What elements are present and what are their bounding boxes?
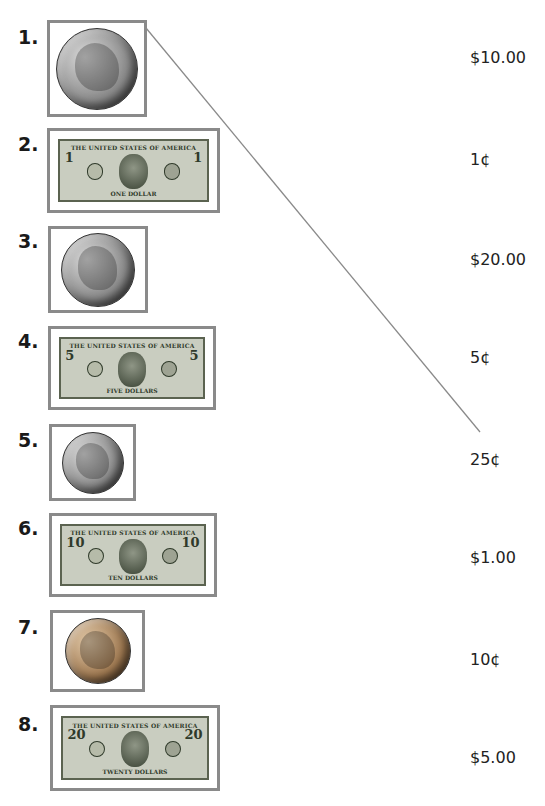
bill-corner-right: 10 (182, 535, 200, 550)
value-option[interactable]: 25¢ (470, 450, 501, 469)
item-7-penny[interactable] (50, 610, 145, 692)
ten-dollar-bill-icon: THE UNITED STATES OF AMERICA 10 10 TEN D… (60, 524, 206, 586)
item-4-five-dollar[interactable]: THE UNITED STATES OF AMERICA 5 5 FIVE DO… (48, 326, 216, 410)
bill-bottom-text: TWENTY DOLLARS (63, 768, 207, 775)
bill-bottom-text: ONE DOLLAR (60, 190, 206, 197)
item-number: 6. (18, 517, 38, 539)
item-number: 2. (18, 133, 38, 155)
item-2-one-dollar[interactable]: THE UNITED STATES OF AMERICA 1 1 ONE DOL… (47, 128, 220, 213)
bill-corner-right: 1 (193, 150, 202, 165)
item-6-ten-dollar[interactable]: THE UNITED STATES OF AMERICA 10 10 TEN D… (49, 513, 217, 597)
value-option[interactable]: 10¢ (470, 650, 501, 669)
value-option[interactable]: 5¢ (470, 348, 490, 367)
dime-coin-icon (62, 432, 124, 494)
item-number: 7. (18, 616, 38, 638)
item-number: 8. (18, 713, 38, 735)
bill-top-text: THE UNITED STATES OF AMERICA (60, 144, 206, 151)
value-option[interactable]: $1.00 (470, 548, 516, 567)
bill-corner-right: 5 (190, 348, 199, 363)
item-number: 5. (18, 429, 38, 451)
bill-bottom-text: TEN DOLLARS (62, 574, 204, 581)
item-8-twenty-dollar[interactable]: THE UNITED STATES OF AMERICA 20 20 TWENT… (50, 705, 220, 791)
value-option[interactable]: $10.00 (470, 48, 526, 67)
nickel-coin-icon (61, 233, 135, 307)
item-number: 3. (18, 230, 38, 252)
five-dollar-bill-icon: THE UNITED STATES OF AMERICA 5 5 FIVE DO… (59, 337, 205, 399)
penny-coin-icon (65, 618, 131, 684)
bill-corner-left: 20 (68, 727, 86, 742)
item-5-dime[interactable] (49, 424, 136, 501)
item-number: 4. (18, 330, 38, 352)
bill-corner-left: 10 (66, 535, 84, 550)
value-option[interactable]: 1¢ (470, 150, 490, 169)
twenty-dollar-bill-icon: THE UNITED STATES OF AMERICA 20 20 TWENT… (61, 716, 209, 780)
value-option[interactable]: $20.00 (470, 250, 526, 269)
item-3-nickel[interactable] (48, 226, 148, 313)
bill-corner-left: 1 (65, 150, 74, 165)
bill-top-text: THE UNITED STATES OF AMERICA (61, 342, 203, 349)
quarter-coin-icon (56, 28, 138, 110)
bill-corner-right: 20 (184, 727, 202, 742)
item-1-quarter[interactable] (47, 20, 147, 117)
bill-corner-left: 5 (65, 348, 74, 363)
bill-bottom-text: FIVE DOLLARS (61, 387, 203, 394)
item-number: 1. (18, 26, 38, 48)
value-option[interactable]: $5.00 (470, 748, 516, 767)
one-dollar-bill-icon: THE UNITED STATES OF AMERICA 1 1 ONE DOL… (58, 139, 208, 202)
